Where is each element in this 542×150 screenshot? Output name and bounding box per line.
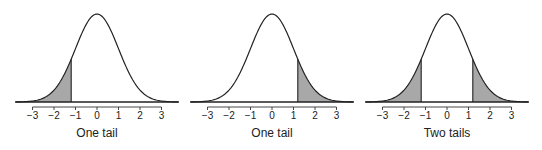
tick-label: −3 [202, 110, 214, 121]
panel-one-tail-left: −3−2−10123 One tail [15, 14, 178, 140]
panel-caption: One tail [251, 126, 292, 140]
tick-label: −3 [377, 110, 389, 121]
shaded-tail-region [365, 59, 421, 102]
tick-label: 2 [312, 110, 318, 121]
tick-label: 1 [291, 110, 297, 121]
shaded-tail-region [298, 59, 354, 102]
tick-label: 1 [116, 110, 122, 121]
normal-tail-charts: −3−2−10123 One tail −3−2−10123 One tail … [0, 0, 542, 150]
tick-label: 0 [269, 110, 275, 121]
normal-curve [15, 14, 178, 102]
shaded-tail-region [15, 59, 71, 102]
x-axis: −3−2−10123 [377, 107, 515, 121]
tick-label: 3 [159, 110, 165, 121]
shaded-tail-region [473, 59, 529, 102]
normal-curve [365, 14, 528, 102]
panel-one-tail-right: −3−2−10123 One tail [190, 14, 353, 140]
panel-caption: One tail [76, 126, 117, 140]
tick-label: −2 [48, 110, 60, 121]
normal-curve [190, 14, 353, 102]
panel-caption: Two tails [424, 126, 471, 140]
tick-label: −1 [70, 110, 82, 121]
tick-label: 2 [487, 110, 493, 121]
tick-label: 2 [137, 110, 143, 121]
tick-label: 3 [334, 110, 340, 121]
x-axis: −3−2−10123 [202, 107, 340, 121]
x-axis: −3−2−10123 [27, 107, 165, 121]
tick-label: −1 [420, 110, 432, 121]
tick-label: −2 [223, 110, 235, 121]
tick-label: 1 [466, 110, 472, 121]
tick-label: −3 [27, 110, 39, 121]
tick-label: 3 [509, 110, 515, 121]
tick-label: 0 [444, 110, 450, 121]
tick-label: −1 [245, 110, 257, 121]
panel-two-tails: −3−2−10123 Two tails [365, 14, 528, 140]
tick-label: 0 [94, 110, 100, 121]
tick-label: −2 [398, 110, 410, 121]
